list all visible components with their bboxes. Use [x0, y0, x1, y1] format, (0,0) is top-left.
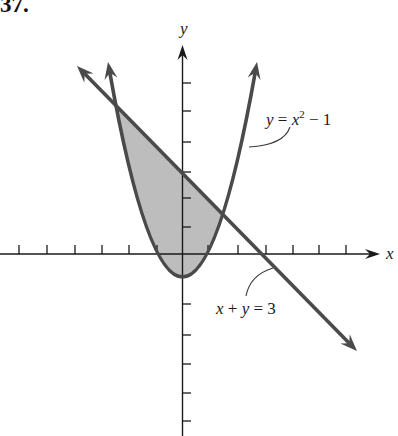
graph-figure: 37. x	[0, 0, 398, 436]
parabola-label-y: y	[264, 110, 274, 129]
line-equation-label: x + y = 3	[215, 299, 276, 318]
exercise-number: 37.	[0, 0, 29, 17]
x-axis-label: x	[385, 244, 394, 263]
line-label-leader	[246, 268, 273, 296]
y-axis-label: y	[178, 19, 188, 38]
line-label-plus: +	[224, 299, 242, 318]
parabola-label-leader	[249, 127, 290, 147]
parabola-label-equals: =	[274, 110, 292, 129]
line-label-rest: = 3	[249, 299, 276, 318]
parabola-label-rest: − 1	[305, 110, 332, 129]
parabola-equation-label: y = x2 − 1	[264, 108, 331, 129]
line-label-y: y	[240, 299, 250, 318]
